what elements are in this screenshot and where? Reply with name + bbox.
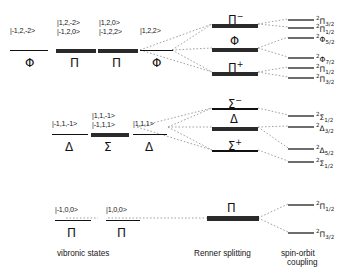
renner-symbol-delta-middle-letter: Δ (230, 112, 238, 126)
spin-orbit-level-pi-2 (288, 232, 314, 234)
symbol-pi-col1: Π (67, 227, 76, 239)
level-delta-col1 (52, 134, 88, 135)
ket-phi-col3-bottom: |-1,2,2> (99, 28, 122, 37)
renner-level-delta-middle (212, 127, 258, 131)
symbol-delta-col1: Δ (65, 141, 73, 153)
ket-pi-col1: |-1,0,0> (55, 206, 78, 215)
spin-orbit-level-delta-4 (288, 161, 314, 163)
spin-orbit-level-phi-5 (288, 67, 314, 69)
spin-orbit-level-phi-6 (288, 77, 314, 79)
spin-orbit-level-delta-2 (288, 126, 314, 128)
renner-teller-energy-level-diagram: |-1,2,-2> Φ |1,2,-2> |-1,2,0> Π |1,2,0> … (0, 0, 339, 277)
symbol-phi-col1: Φ (25, 57, 34, 69)
term-sub: 3/2 (325, 79, 334, 85)
spin-orbit-level-pi-1 (288, 204, 314, 206)
renner-symbol-delta-top-sup: − (235, 96, 242, 105)
term-sub: 1/2 (324, 163, 333, 169)
level-pi-col1 (55, 220, 91, 221)
spin-orbit-term-pi-2: 2Π3/2 (316, 227, 334, 241)
renner-symbol-phi-middle: Φ (230, 36, 239, 48)
ket-phi-col2-bottom: |-1,2,0> (57, 28, 80, 37)
renner-symbol-phi-middle-letter: Φ (230, 34, 239, 48)
spin-orbit-term-phi-3: 2Φ5/2 (316, 32, 334, 46)
symbol-phi-col4: Φ (152, 57, 161, 69)
ket-delta-col2-bottom: |-1,1,1> (92, 121, 115, 130)
caption-renner-splitting: Renner splitting (194, 249, 251, 259)
level-phi-col3 (98, 48, 138, 54)
ket-phi-col1: |-1,2,-2> (10, 27, 35, 36)
renner-symbol-phi-top-sup: − (237, 12, 244, 21)
renner-symbol-delta-top: Σ− (228, 95, 242, 110)
spin-orbit-level-phi-1 (288, 19, 314, 21)
caption-spin-orbit-coupling-line2: coupling (287, 258, 318, 268)
renner-level-pi-center (207, 216, 259, 221)
ket-delta-col3: |1,1,1> (133, 120, 154, 129)
level-phi-col4 (140, 50, 173, 51)
symbol-phi-col2: Π (70, 57, 79, 69)
caption-vibronic-states: vibronic states (57, 249, 109, 259)
ket-pi-col2: |1,0,0> (106, 206, 127, 215)
spin-orbit-term-delta-3: 2Δ5/2 (316, 143, 334, 157)
symbol-phi-col3: Π (112, 57, 121, 69)
renner-symbol-pi-center-letter: Π (227, 201, 236, 215)
term-sub: 1/2 (325, 206, 334, 212)
renner-symbol-phi-top: Π− (228, 11, 243, 26)
level-delta-col2 (91, 132, 129, 138)
spin-orbit-level-delta-3 (288, 148, 314, 150)
spin-orbit-term-delta-4: 2Σ1/2 (316, 156, 333, 170)
spin-orbit-term-delta-2: 2Δ3/2 (316, 121, 334, 135)
correlation-lines (0, 0, 339, 277)
symbol-pi-col2: Π (117, 227, 126, 239)
level-pi-col2 (106, 220, 140, 221)
renner-symbol-delta-bottom-sup: + (235, 138, 242, 147)
spin-orbit-level-phi-3 (288, 37, 314, 39)
spin-orbit-term-phi-6: 2Π3/2 (316, 72, 334, 86)
term-sub: 5/2 (325, 39, 334, 45)
renner-symbol-phi-bottom-sup: + (237, 60, 244, 69)
term-sub: 3/2 (325, 128, 334, 134)
spin-orbit-level-delta-1 (288, 115, 314, 117)
level-phi-col1 (10, 50, 48, 51)
renner-symbol-delta-middle: Δ (230, 114, 238, 126)
renner-symbol-pi-center: Π (227, 203, 236, 215)
ket-phi-col4: |1,2,2> (140, 27, 161, 36)
renner-symbol-phi-bottom-letter: Π (228, 61, 237, 75)
spin-orbit-term-pi-1: 2Π1/2 (316, 199, 334, 213)
renner-level-phi-middle (212, 48, 258, 52)
spin-orbit-level-phi-4 (288, 57, 314, 59)
spin-orbit-level-phi-2 (288, 27, 314, 29)
level-phi-col2 (56, 48, 96, 54)
symbol-delta-col3: Δ (145, 141, 153, 153)
ket-delta-col1: |-1,1,-1> (52, 120, 77, 129)
symbol-delta-col2: Σ (104, 141, 112, 153)
level-delta-col3 (133, 134, 167, 135)
renner-symbol-phi-bottom: Π+ (228, 59, 243, 74)
renner-symbol-delta-bottom: Σ+ (228, 137, 242, 152)
renner-symbol-phi-top-letter: Π (228, 13, 237, 27)
term-sub: 3/2 (325, 234, 334, 240)
